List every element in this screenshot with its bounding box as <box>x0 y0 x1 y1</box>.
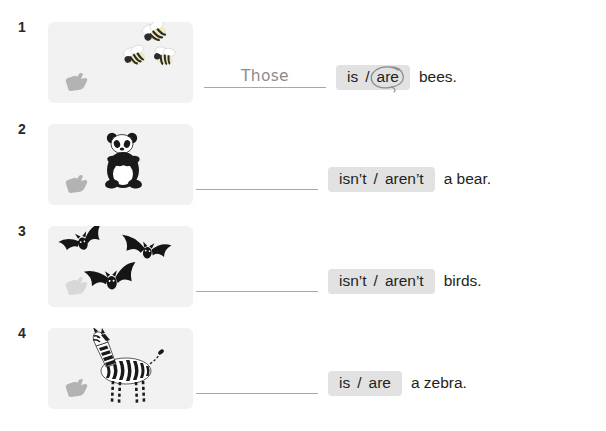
choice-option-1[interactable]: is <box>343 68 362 86</box>
item-number: 4 <box>18 326 26 340</box>
choice-option-2[interactable]: aren’t <box>381 272 428 290</box>
bats-illustration <box>48 226 193 307</box>
choice-chip[interactable]: is / are <box>336 65 410 90</box>
pointing-hand-icon <box>66 379 88 397</box>
circle-annotation-icon <box>368 62 408 94</box>
sentence-tail: a zebra. <box>411 374 467 392</box>
sentence-line: isn’t / aren’t birds. <box>196 266 482 296</box>
choice-separator: / <box>354 374 364 392</box>
sentence-line: is / are a zebra. <box>196 368 467 398</box>
exercise-row: 3 <box>0 214 606 316</box>
item-number: 1 <box>18 20 26 34</box>
pointing-hand-icon <box>66 175 88 193</box>
answer-blank[interactable] <box>196 370 318 396</box>
choice-separator: / <box>371 170 381 188</box>
choice-option-2[interactable]: are <box>365 374 395 392</box>
answer-blank[interactable] <box>196 268 318 294</box>
worksheet: 1 <box>0 0 606 431</box>
sentence-line: isn’t / aren’t a bear. <box>196 164 491 194</box>
picture-panel-bees <box>48 22 193 103</box>
written-answer: Those <box>204 67 326 85</box>
answer-blank[interactable] <box>196 166 318 192</box>
picture-panel-zebra <box>48 328 193 409</box>
pointing-hand-icon <box>66 73 88 91</box>
sentence-tail: a bear. <box>444 170 491 188</box>
choice-option-1[interactable]: is <box>335 374 354 392</box>
bees-illustration <box>48 22 193 103</box>
exercise-row: 2 <box>0 112 606 214</box>
choice-chip[interactable]: is / are <box>328 371 402 396</box>
choice-separator: / <box>371 272 381 290</box>
choice-option-1[interactable]: isn’t <box>335 272 371 290</box>
choice-option-2[interactable]: aren’t <box>381 170 428 188</box>
choice-separator: / <box>362 68 372 86</box>
choice-chip[interactable]: isn’t / aren’t <box>328 167 435 192</box>
choice-option-2[interactable]: are <box>373 68 403 86</box>
zebra-illustration <box>48 328 193 409</box>
sentence-tail: bees. <box>419 68 457 86</box>
panda-illustration <box>48 124 193 205</box>
pointing-hand-icon <box>66 277 88 295</box>
exercise-row: 1 <box>0 10 606 112</box>
answer-blank[interactable]: Those <box>204 64 326 90</box>
sentence-line: Those is / are bees. <box>204 62 457 92</box>
choice-option-1[interactable]: isn’t <box>335 170 371 188</box>
picture-panel-bats <box>48 226 193 307</box>
sentence-tail: birds. <box>444 272 482 290</box>
picture-panel-panda <box>48 124 193 205</box>
exercise-row: 4 <box>0 316 606 418</box>
choice-chip[interactable]: isn’t / aren’t <box>328 269 435 294</box>
item-number: 2 <box>18 122 26 136</box>
item-number: 3 <box>18 224 26 238</box>
